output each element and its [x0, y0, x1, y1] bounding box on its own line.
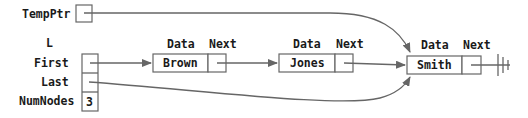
node-next-header: Next	[463, 38, 491, 52]
list-label: L	[46, 36, 53, 50]
last-arrow	[89, 77, 410, 101]
numnodes-label: NumNodes	[19, 94, 74, 108]
node-data-value: Brown	[163, 56, 198, 70]
node-next-header: Next	[336, 37, 364, 51]
tempptr-label: TempPtr	[22, 7, 71, 21]
node-data-header: Data	[167, 37, 195, 51]
node-next-header: Next	[209, 37, 237, 51]
last-label: Last	[41, 75, 69, 89]
linked-list-diagram: TempPtr L First Last NumNodes 3 Data Nex…	[0, 0, 528, 118]
node-data-value: Jones	[290, 56, 325, 70]
numnodes-value: 3	[86, 95, 93, 109]
first-label: First	[34, 56, 69, 70]
node-data-value: Smith	[417, 58, 452, 72]
node-data-header: Data	[421, 38, 449, 52]
node-data-header: Data	[293, 37, 321, 51]
